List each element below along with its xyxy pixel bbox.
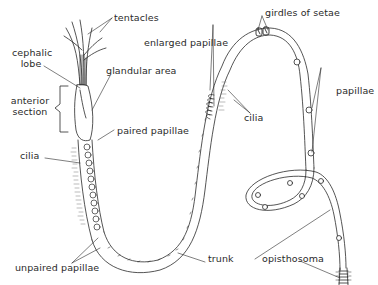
label-girdles-of-setae: girdles of setae <box>265 7 340 18</box>
label-cephalic-lobe: cephalic lobe <box>12 47 50 69</box>
label-cilia-right: cilia <box>244 112 263 123</box>
label-cephalic-lobe-line2: lobe <box>12 58 50 69</box>
tentacles-drawing <box>64 20 106 85</box>
label-unpaired-papillae: unpaired papillae <box>15 262 99 273</box>
label-cephalic-lobe-line1: cephalic <box>12 47 50 58</box>
label-cilia-left: cilia <box>20 150 39 161</box>
label-trunk: trunk <box>208 253 234 264</box>
forepart-drawing <box>78 140 104 240</box>
anterior-section-drawing <box>55 84 93 140</box>
worm-anatomy-diagram: tentacles cephalic lobe glandular area a… <box>0 0 378 285</box>
label-paired-papillae: paired papillae <box>117 125 189 136</box>
label-enlarged-papillae: enlarged papillae <box>144 37 228 48</box>
label-tentacles: tentacles <box>114 12 159 23</box>
label-glandular-area: glandular area <box>106 65 177 76</box>
label-anterior-section: anterior section <box>10 95 50 117</box>
label-opisthosoma: opisthosoma <box>262 253 324 264</box>
label-anterior-section-line2: section <box>10 106 50 117</box>
label-anterior-section-line1: anterior <box>10 95 50 106</box>
enlarged-papillae-drawing <box>206 94 214 119</box>
label-papillae: papillae <box>336 85 374 96</box>
opisthosoma-drawing <box>336 268 351 285</box>
trunk-drawing <box>92 27 314 273</box>
cilia-left-drawing <box>71 148 85 224</box>
